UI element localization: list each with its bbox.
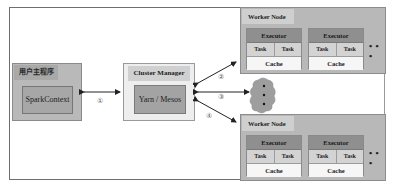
connection-arrows [0, 0, 395, 188]
step-label-4: ④ [206, 112, 212, 120]
cloud-icon [250, 78, 275, 113]
step-label-2: ② [218, 73, 224, 81]
step-label-3: ③ [218, 93, 224, 101]
step-label-1: ① [97, 97, 103, 105]
